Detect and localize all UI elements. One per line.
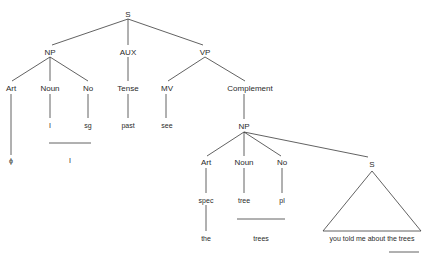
edge-s-np	[52, 19, 128, 45]
node-no2: No	[277, 158, 288, 167]
node-s2: S	[369, 160, 374, 169]
leaf-no2-pl: pl	[279, 197, 285, 205]
leaf-noun-i: I	[49, 122, 51, 129]
node-s-root: S	[125, 10, 130, 19]
node-tense: Tense	[117, 84, 139, 93]
node-noun2: Noun	[234, 158, 253, 167]
node-no: No	[83, 84, 94, 93]
leaf-tense-past: past	[121, 122, 134, 130]
s2-content-text: you told me about the trees	[330, 235, 415, 243]
leaf-mv-see: see	[161, 122, 172, 129]
node-art2: Art	[201, 158, 212, 167]
leaf-no-sg: sg	[84, 122, 92, 130]
node-art: Art	[6, 84, 17, 93]
leaf-art-phi: ϕ	[9, 157, 13, 165]
s2-triangle	[323, 171, 421, 231]
surface-noun2-trees: trees	[253, 235, 269, 242]
edge-np2-art2	[207, 132, 244, 156]
edge-np-art	[12, 57, 50, 81]
edge-vp-complement	[205, 57, 245, 81]
node-mv: MV	[161, 84, 174, 93]
edge-s-vp	[128, 19, 203, 45]
node-aux: AUX	[120, 48, 137, 57]
node-vp: VP	[200, 48, 211, 57]
node-np2: NP	[238, 122, 249, 131]
syntax-tree-diagram: S NP AUX VP Art Noun No Tense MV Complem…	[0, 0, 426, 259]
edge-vp-mv	[168, 57, 205, 81]
leaf-noun2-tree: tree	[238, 197, 250, 204]
node-np: NP	[44, 48, 55, 57]
node-noun: Noun	[40, 84, 59, 93]
node-complement: Complement	[227, 84, 273, 93]
surface-art2-the: the	[201, 235, 211, 242]
leaf-art2-spec: spec	[199, 197, 214, 205]
surface-np-i: I	[69, 157, 71, 164]
edge-np-no	[50, 57, 88, 81]
